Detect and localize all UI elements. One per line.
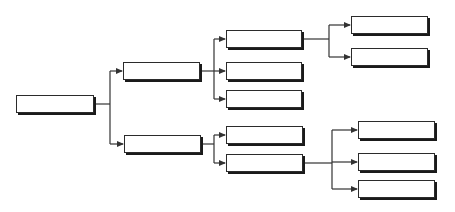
node-a2 <box>226 62 302 80</box>
connector-a1 <box>304 25 350 57</box>
node-b2a <box>358 121 435 139</box>
node-a <box>123 62 200 80</box>
tree-diagram <box>0 0 455 212</box>
node-b2b <box>358 153 435 171</box>
node-a1 <box>226 30 302 48</box>
node-b2c <box>358 180 435 198</box>
node-b <box>124 135 201 153</box>
node-a3 <box>226 90 302 108</box>
node-a1a <box>351 16 428 34</box>
connector-b2 <box>305 130 357 189</box>
connector-root <box>96 71 123 144</box>
node-b2 <box>226 154 303 172</box>
node-a1b <box>351 48 428 66</box>
node-root <box>16 95 94 113</box>
node-b1 <box>226 126 303 144</box>
connector-a <box>202 39 225 99</box>
connector-b <box>203 135 225 163</box>
